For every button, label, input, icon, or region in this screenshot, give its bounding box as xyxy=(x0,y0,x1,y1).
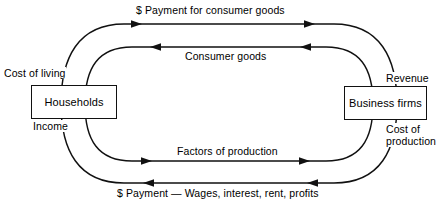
arrowhead-outer-top-right xyxy=(304,20,315,28)
arrowhead-inner-top-left xyxy=(150,43,161,51)
corner-label-revenue: Revenue xyxy=(386,72,429,84)
business-firms-label: Business firms xyxy=(349,97,422,109)
corner-label-cost-of-production-line1: Cost of xyxy=(386,123,436,135)
flow-label-payment-wages-interest-rent-profits: $ Payment — Wages, interest, rent, profi… xyxy=(117,187,319,199)
flow-label-consumer-goods: Consumer goods xyxy=(185,50,266,62)
inner-loop-path xyxy=(85,47,373,161)
corner-label-cost-of-production: Cost of production xyxy=(386,123,436,147)
arrowhead-outer-bottom-left xyxy=(143,179,154,187)
arrowhead-outer-bottom-right xyxy=(307,179,318,187)
households-label: Households xyxy=(44,96,103,108)
arrowhead-inner-bottom-right xyxy=(299,157,310,165)
business-firms-box: Business firms xyxy=(344,86,427,120)
flow-label-factors-of-production: Factors of production xyxy=(177,145,278,157)
arrowhead-outer-top-left xyxy=(131,20,142,28)
circular-flow-diagram: Households Business firms $ Payment for … xyxy=(0,0,440,208)
corner-label-cost-of-living: Cost of living xyxy=(4,67,66,79)
corner-label-income: Income xyxy=(33,120,68,132)
households-box: Households xyxy=(31,85,117,119)
arrowhead-inner-bottom-left xyxy=(141,157,152,165)
corner-label-cost-of-production-line2: production xyxy=(386,135,436,147)
flow-label-payment-for-consumer-goods: $ Payment for consumer goods xyxy=(136,4,285,16)
arrowhead-inner-top-right xyxy=(300,43,311,51)
